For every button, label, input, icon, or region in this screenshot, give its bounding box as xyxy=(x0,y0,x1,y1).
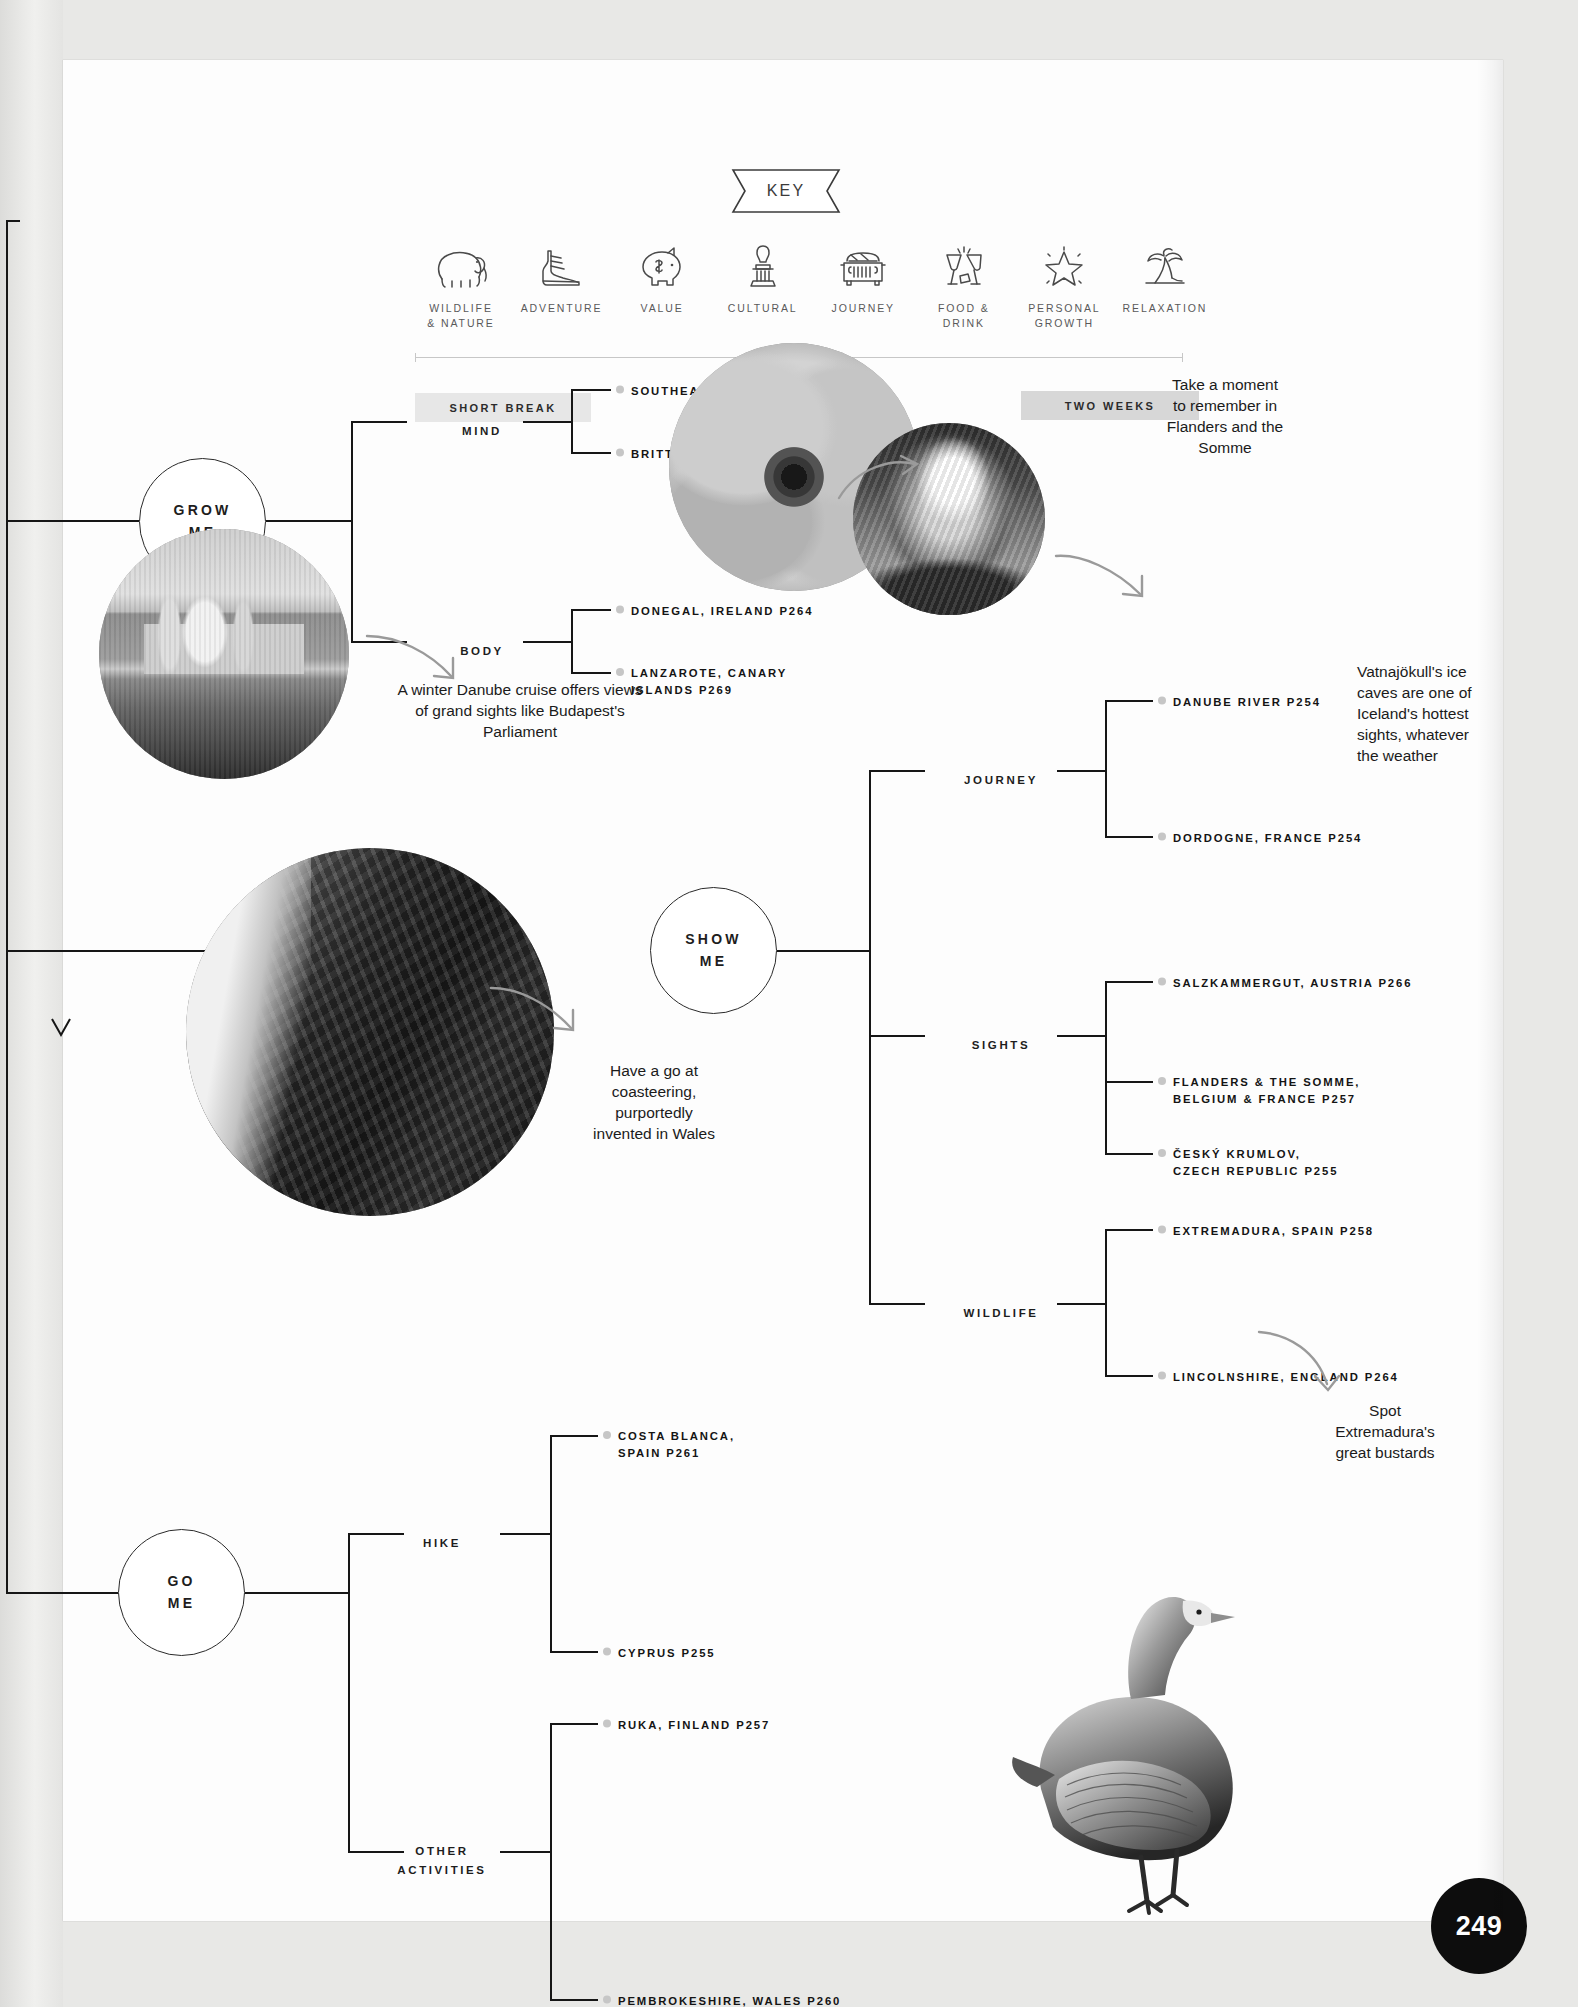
destination-item[interactable]: ČESKÝ KRUMLOV, CZECH REPUBLIC P255 xyxy=(1158,1146,1338,1180)
key-item-cultural: CULTURAL xyxy=(715,235,811,316)
destination-dot xyxy=(1158,697,1166,705)
destination-dot xyxy=(603,1996,611,2004)
journey-split xyxy=(1105,700,1107,838)
tree-connector-grow xyxy=(6,520,139,522)
key-item-label: JOURNEY xyxy=(832,301,895,316)
sights-leaf-3 xyxy=(1105,1153,1153,1155)
branch-label-mind: MIND xyxy=(462,404,502,441)
cheers-glasses-icon xyxy=(940,235,988,289)
hike-leaf-2 xyxy=(550,1651,598,1653)
destination-dot xyxy=(1158,1226,1166,1234)
elephant-icon xyxy=(432,235,490,289)
branch-label-body: BODY xyxy=(460,624,504,661)
body-stem xyxy=(523,641,573,643)
other-leaf-2 xyxy=(550,1999,598,2001)
key-item-label: VALUE xyxy=(641,301,684,316)
destination-label: EXTREMADURA, SPAIN P258 xyxy=(1173,1223,1374,1240)
other-stem xyxy=(500,1851,552,1853)
hike-split xyxy=(550,1435,552,1653)
key-legend: WILDLIFE & NATURE ADVENTURE xyxy=(413,235,1213,345)
grow-trunk xyxy=(266,520,353,522)
key-item-food-drink: FOOD & DRINK xyxy=(916,235,1012,331)
mind-stem xyxy=(523,421,573,423)
monument-icon xyxy=(744,235,782,289)
sights-split xyxy=(1105,981,1107,1155)
destination-item[interactable]: RUKA, FINLAND P257 xyxy=(603,1717,770,1734)
body-split xyxy=(571,609,573,674)
key-item-wildlife: WILDLIFE & NATURE xyxy=(413,235,509,331)
key-item-label: ADVENTURE xyxy=(521,301,603,316)
wildlife-split xyxy=(1105,1229,1107,1377)
arrow-to-ice-cave xyxy=(1052,548,1152,606)
destination-label: RUKA, FINLAND P257 xyxy=(618,1717,770,1734)
branch-text: BODY xyxy=(460,645,504,657)
branch-label-other-activities: OTHER ACTIVITIES xyxy=(397,1824,486,1879)
journey-leaf-1 xyxy=(1105,700,1153,702)
key-item-journey: JOURNEY xyxy=(815,235,911,316)
arrow-to-bustard xyxy=(1255,1326,1345,1398)
destination-item[interactable]: PEMBROKESHIRE, WALES P260 xyxy=(603,1993,841,2007)
destination-item[interactable]: DANUBE RIVER P254 xyxy=(1158,694,1321,711)
key-item-label: FOOD & DRINK xyxy=(938,301,990,331)
page-number: 249 xyxy=(1456,1911,1503,1942)
caption-bustard: Spot Extremadura's great bustards xyxy=(1301,1400,1469,1463)
destination-item[interactable]: DORDOGNE, FRANCE P254 xyxy=(1158,830,1362,847)
branch-label-journey: JOURNEY xyxy=(964,753,1038,790)
hike-stem xyxy=(500,1533,552,1535)
destination-dot xyxy=(603,1720,611,1728)
arrow-head-down xyxy=(49,1015,73,1043)
destination-item[interactable]: CYPRUS P255 xyxy=(603,1645,716,1662)
destination-label: FLANDERS & THE SOMME, BELGIUM & FRANCE P… xyxy=(1173,1074,1360,1108)
branch-label-sights: SIGHTS xyxy=(972,1018,1030,1055)
key-banner: KEY xyxy=(731,168,841,214)
destination-dot xyxy=(1158,1149,1166,1157)
book-spine xyxy=(0,0,63,2007)
page-sheet: KEY WILDLIFE & NATURE xyxy=(63,60,1503,1921)
hub-show-me[interactable]: SHOW ME xyxy=(650,887,777,1014)
star-icon xyxy=(1041,235,1087,289)
destination-item[interactable]: SALZKAMMERGUT, AUSTRIA P266 xyxy=(1158,975,1412,992)
destination-label: SALZKAMMERGUT, AUSTRIA P266 xyxy=(1173,975,1412,992)
jeep-icon xyxy=(837,235,889,289)
caption-ice-cave: Vatnajökull's ice caves are one of Icela… xyxy=(1357,661,1547,766)
key-item-value: VALUE xyxy=(614,235,710,316)
photo-budapest xyxy=(99,529,349,779)
go-split-vertical xyxy=(348,1533,350,1853)
page-number-badge: 249 xyxy=(1431,1878,1527,1974)
piggy-bank-icon xyxy=(637,235,687,289)
hub-label: SHOW ME xyxy=(685,929,741,972)
hub-go-me[interactable]: GO ME xyxy=(118,1529,245,1656)
go-branch-other xyxy=(348,1851,404,1853)
branch-text: SIGHTS xyxy=(972,1039,1030,1051)
hub-label: GO ME xyxy=(167,1571,195,1614)
destination-item[interactable]: DONEGAL, IRELAND P264 xyxy=(616,603,813,620)
key-item-label: CULTURAL xyxy=(728,301,798,316)
sights-leaf-2 xyxy=(1105,1081,1153,1083)
destination-label: DANUBE RIVER P254 xyxy=(1173,694,1321,711)
journey-stem xyxy=(1057,770,1107,772)
wildlife-leaf-1 xyxy=(1105,1229,1153,1231)
destination-item[interactable]: EXTREMADURA, SPAIN P258 xyxy=(1158,1223,1374,1240)
destination-item[interactable]: COSTA BLANCA, SPAIN P261 xyxy=(603,1428,735,1462)
show-branch-journey xyxy=(869,770,925,772)
sights-leaf-1 xyxy=(1105,981,1153,983)
destination-dot xyxy=(616,606,624,614)
body-leaf-1 xyxy=(571,609,611,611)
destination-item[interactable]: FLANDERS & THE SOMME, BELGIUM & FRANCE P… xyxy=(1158,1074,1360,1108)
photo-great-bustard xyxy=(1001,1579,1331,1919)
hiking-boot-icon xyxy=(539,235,585,289)
mind-leaf-2 xyxy=(571,452,611,454)
branch-text: WILDLIFE xyxy=(963,1307,1038,1319)
branch-label-wildlife: WILDLIFE xyxy=(963,1286,1038,1323)
tree-spine-top xyxy=(6,220,20,222)
branch-text: HIKE xyxy=(423,1537,461,1549)
photo-image xyxy=(99,529,349,779)
sights-stem xyxy=(1057,1035,1107,1037)
arrow-to-coasteering xyxy=(487,982,583,1040)
arrow-to-poppy xyxy=(835,452,925,504)
mind-split xyxy=(571,389,573,454)
show-branch-sights xyxy=(869,1035,925,1037)
caption-poppy: Take a moment to remember in Flanders an… xyxy=(1135,374,1315,458)
destination-label: DORDOGNE, FRANCE P254 xyxy=(1173,830,1362,847)
caption-budapest: A winter Danube cruise offers views of g… xyxy=(372,679,668,742)
